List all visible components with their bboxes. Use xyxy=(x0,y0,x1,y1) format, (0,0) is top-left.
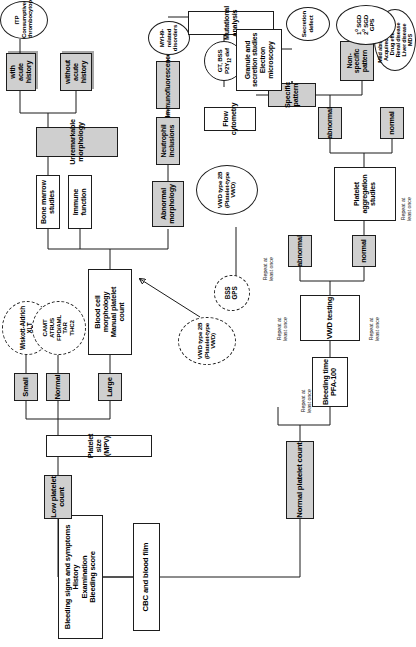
node-dx-itp-consumptive: ITP Consumptive thrombocytopenia xyxy=(0,1,48,39)
node-dx-sgd-gps: 1o SGD 2o SGD GPS xyxy=(336,5,396,45)
vwd2b-dash-line-2: (Platelet-type VWD) xyxy=(204,318,217,364)
node-platelet-aggregation-studies: Platelet aggregation studies xyxy=(334,167,396,221)
vwd2b-solid-line-2: (Platelet-type VWD) xyxy=(224,166,237,214)
node-vwd-type-2b-dashed: VWD type 2B (Platelet-type VWD) xyxy=(178,317,236,365)
bssgps-dash-line-2: GPS xyxy=(232,276,239,310)
abn-morph-line-2: morphology xyxy=(168,182,176,226)
secdef-line-2: defect xyxy=(308,8,315,40)
gran-line-4: microscopy xyxy=(267,30,275,90)
rpt-e2: least once xyxy=(269,251,275,287)
gran-line-3: Electron xyxy=(259,30,267,90)
node-blood-cell-morphology: Blood cell morphology Manual platelet co… xyxy=(88,269,132,355)
without-acute-line-2: acute history xyxy=(72,54,88,90)
node-dx-normal-platelets: CAMT ATRUS FPD/AML TAR THC2 xyxy=(32,301,86,355)
node-clinical-assessment: Bleeding signs and symptoms History Exam… xyxy=(58,515,103,639)
sgd-line-3: GPS xyxy=(369,6,376,44)
node-immune-function: Immune function xyxy=(68,175,92,229)
node-normal-platelet-count: Normal platelet count xyxy=(286,441,314,519)
node-aggregation-abnormal: abnormal xyxy=(318,107,342,139)
label-repeat-bleeding-time: Repeat at least once xyxy=(300,383,314,419)
rpt-a2: least once xyxy=(307,383,313,419)
node-dx-myh9-disorders: MYH9-related disorders xyxy=(148,21,190,55)
gran-line-1: Granule and xyxy=(244,30,252,90)
itp-line-3: thrombocytopenia xyxy=(27,2,33,38)
node-vwd-testing: VWD testing xyxy=(300,295,360,341)
node-dx-secretion-defect: Secretion defect xyxy=(286,7,330,41)
node-flow-cytometry: Flow cytometry xyxy=(204,107,256,131)
node-size-large: Large xyxy=(98,373,122,401)
node-with-acute-history: with acute history xyxy=(6,53,36,91)
clinical-line-4: Bleeding score xyxy=(89,516,97,638)
dx-norm-line-5: THC2 xyxy=(69,302,76,354)
node-platelet-size-mpv: Platelet size (MPV) xyxy=(46,435,152,457)
gran-line-2: secretion studies xyxy=(251,30,259,90)
node-bss-gps-dashed: BSS GPS xyxy=(214,275,250,311)
label-repeat-vwd-normal: Repeat at least once xyxy=(368,311,382,347)
node-immunofluorescence: Immunofluorescence xyxy=(156,61,180,109)
node-bone-marrow-studies: Bone marrow studies xyxy=(36,175,60,229)
label-repeat-aggregation: Repeat at least once xyxy=(400,191,414,227)
node-without-acute-history: without acute history xyxy=(60,53,92,91)
node-unremarkable-morphology: Unremarkable morphology xyxy=(36,127,118,157)
rpt-d2: least once xyxy=(407,191,413,227)
node-abnormal-morphology: Abnormal morphology xyxy=(152,181,184,227)
label-repeat-vwd-testing: Repeat at least once xyxy=(276,311,290,347)
nonspec-dx-6: MDS xyxy=(407,10,413,70)
node-granule-secretion-studies: Granule and secretion studies Electron m… xyxy=(236,29,282,91)
node-size-small: Small xyxy=(14,373,38,401)
nonspec-line-1: Non-specific xyxy=(346,42,361,80)
with-acute-line-2: acute history xyxy=(17,54,33,90)
bcm-line-4: count xyxy=(118,270,126,354)
node-cbc-and-blood-film: CBC and blood film xyxy=(133,523,160,631)
node-vwd-normal: normal xyxy=(352,235,376,267)
rpt-c2: least once xyxy=(375,311,381,347)
rpt-b2: least once xyxy=(283,311,289,347)
node-nonspecific-pattern: Non-specific pattern xyxy=(340,41,374,81)
node-size-normal: Normal xyxy=(46,373,70,401)
label-repeat-vwd-2b: Repeat at least once xyxy=(262,251,276,287)
myh9-line-1: MYH9-related xyxy=(159,22,172,54)
flowdx-line-2: P2Y12 def xyxy=(224,42,231,80)
bt-line-2: PFA-100 xyxy=(330,358,338,406)
node-neutrophil-inclusions: Neutrophil inclusions xyxy=(156,117,180,165)
node-vwd-abnormal: abnormal xyxy=(288,235,312,267)
node-vwd-type-2b-solid: VWD type 2B (Platelet-type VWD) xyxy=(196,165,258,215)
nonspec-line-2: pattern xyxy=(361,42,369,80)
node-low-platelet-count: Low platelet count xyxy=(44,475,72,519)
myh9-line-2: disorders xyxy=(172,22,179,54)
node-aggregation-normal: normal xyxy=(380,107,404,139)
node-bleeding-time-pfa100: Bleeding time PFA-100 xyxy=(312,357,348,407)
